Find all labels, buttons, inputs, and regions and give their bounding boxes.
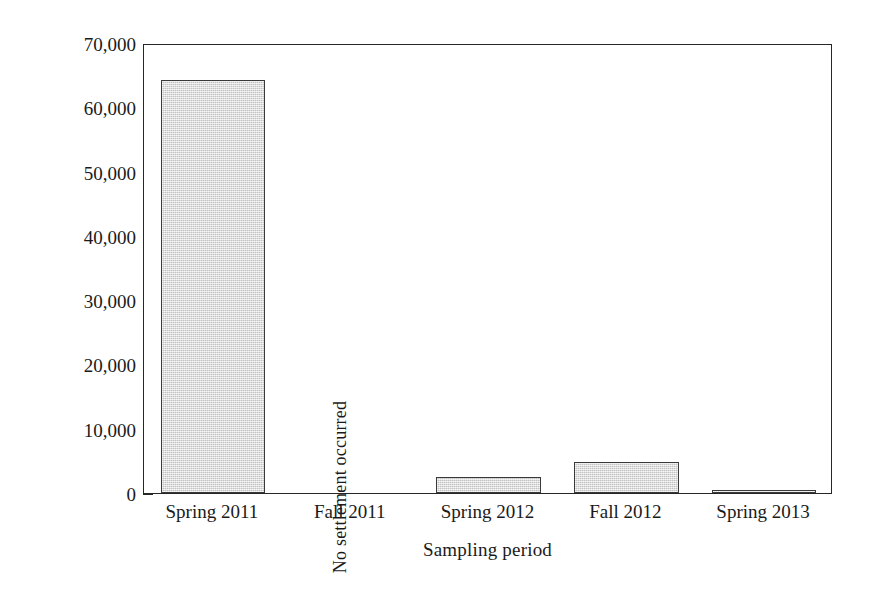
bar-group bbox=[420, 45, 558, 493]
x-axis-tick-label: Fall 2011 bbox=[281, 500, 419, 524]
y-axis-tick-label: 40,000 bbox=[60, 227, 136, 246]
bar-group bbox=[557, 45, 695, 493]
y-axis-tick-label: 20,000 bbox=[60, 356, 136, 375]
bar[interactable] bbox=[712, 490, 817, 493]
x-axis-tick-label: Spring 2013 bbox=[694, 500, 832, 524]
bar-group bbox=[695, 45, 833, 493]
y-axis-tick-label: 10,000 bbox=[60, 420, 136, 439]
y-axis-tick-label: 0 bbox=[60, 485, 136, 504]
bar[interactable] bbox=[436, 477, 541, 493]
y-axis-tick-mark bbox=[143, 494, 153, 495]
y-axis-tick-labels: 010,00020,00030,00040,00050,00060,00070,… bbox=[60, 44, 136, 494]
x-axis-tick-labels: Spring 2011Fall 2011Spring 2012Fall 2012… bbox=[143, 500, 832, 530]
y-axis-tick-label: 50,000 bbox=[60, 163, 136, 182]
bar-group bbox=[144, 45, 282, 493]
y-axis-tick-label: 30,000 bbox=[60, 292, 136, 311]
y-axis-tick-label: 60,000 bbox=[60, 99, 136, 118]
y-axis-title: Settled juveniles m−2 bbox=[18, 0, 48, 74]
bar-chart-figure: Settled juveniles m−2 010,00020,00030,00… bbox=[0, 0, 880, 589]
bar[interactable] bbox=[161, 80, 266, 493]
x-axis-title: Sampling period bbox=[143, 539, 832, 561]
plot-area: No settlement occurred bbox=[143, 44, 832, 494]
x-axis-tick-label: Spring 2011 bbox=[143, 500, 281, 524]
y-axis-tick-label: 70,000 bbox=[60, 35, 136, 54]
x-axis-tick-label: Fall 2012 bbox=[556, 500, 694, 524]
bars-layer: No settlement occurred bbox=[144, 45, 831, 493]
bar-group: No settlement occurred bbox=[282, 45, 420, 493]
bar[interactable] bbox=[574, 462, 679, 493]
x-axis-tick-label: Spring 2012 bbox=[419, 500, 557, 524]
